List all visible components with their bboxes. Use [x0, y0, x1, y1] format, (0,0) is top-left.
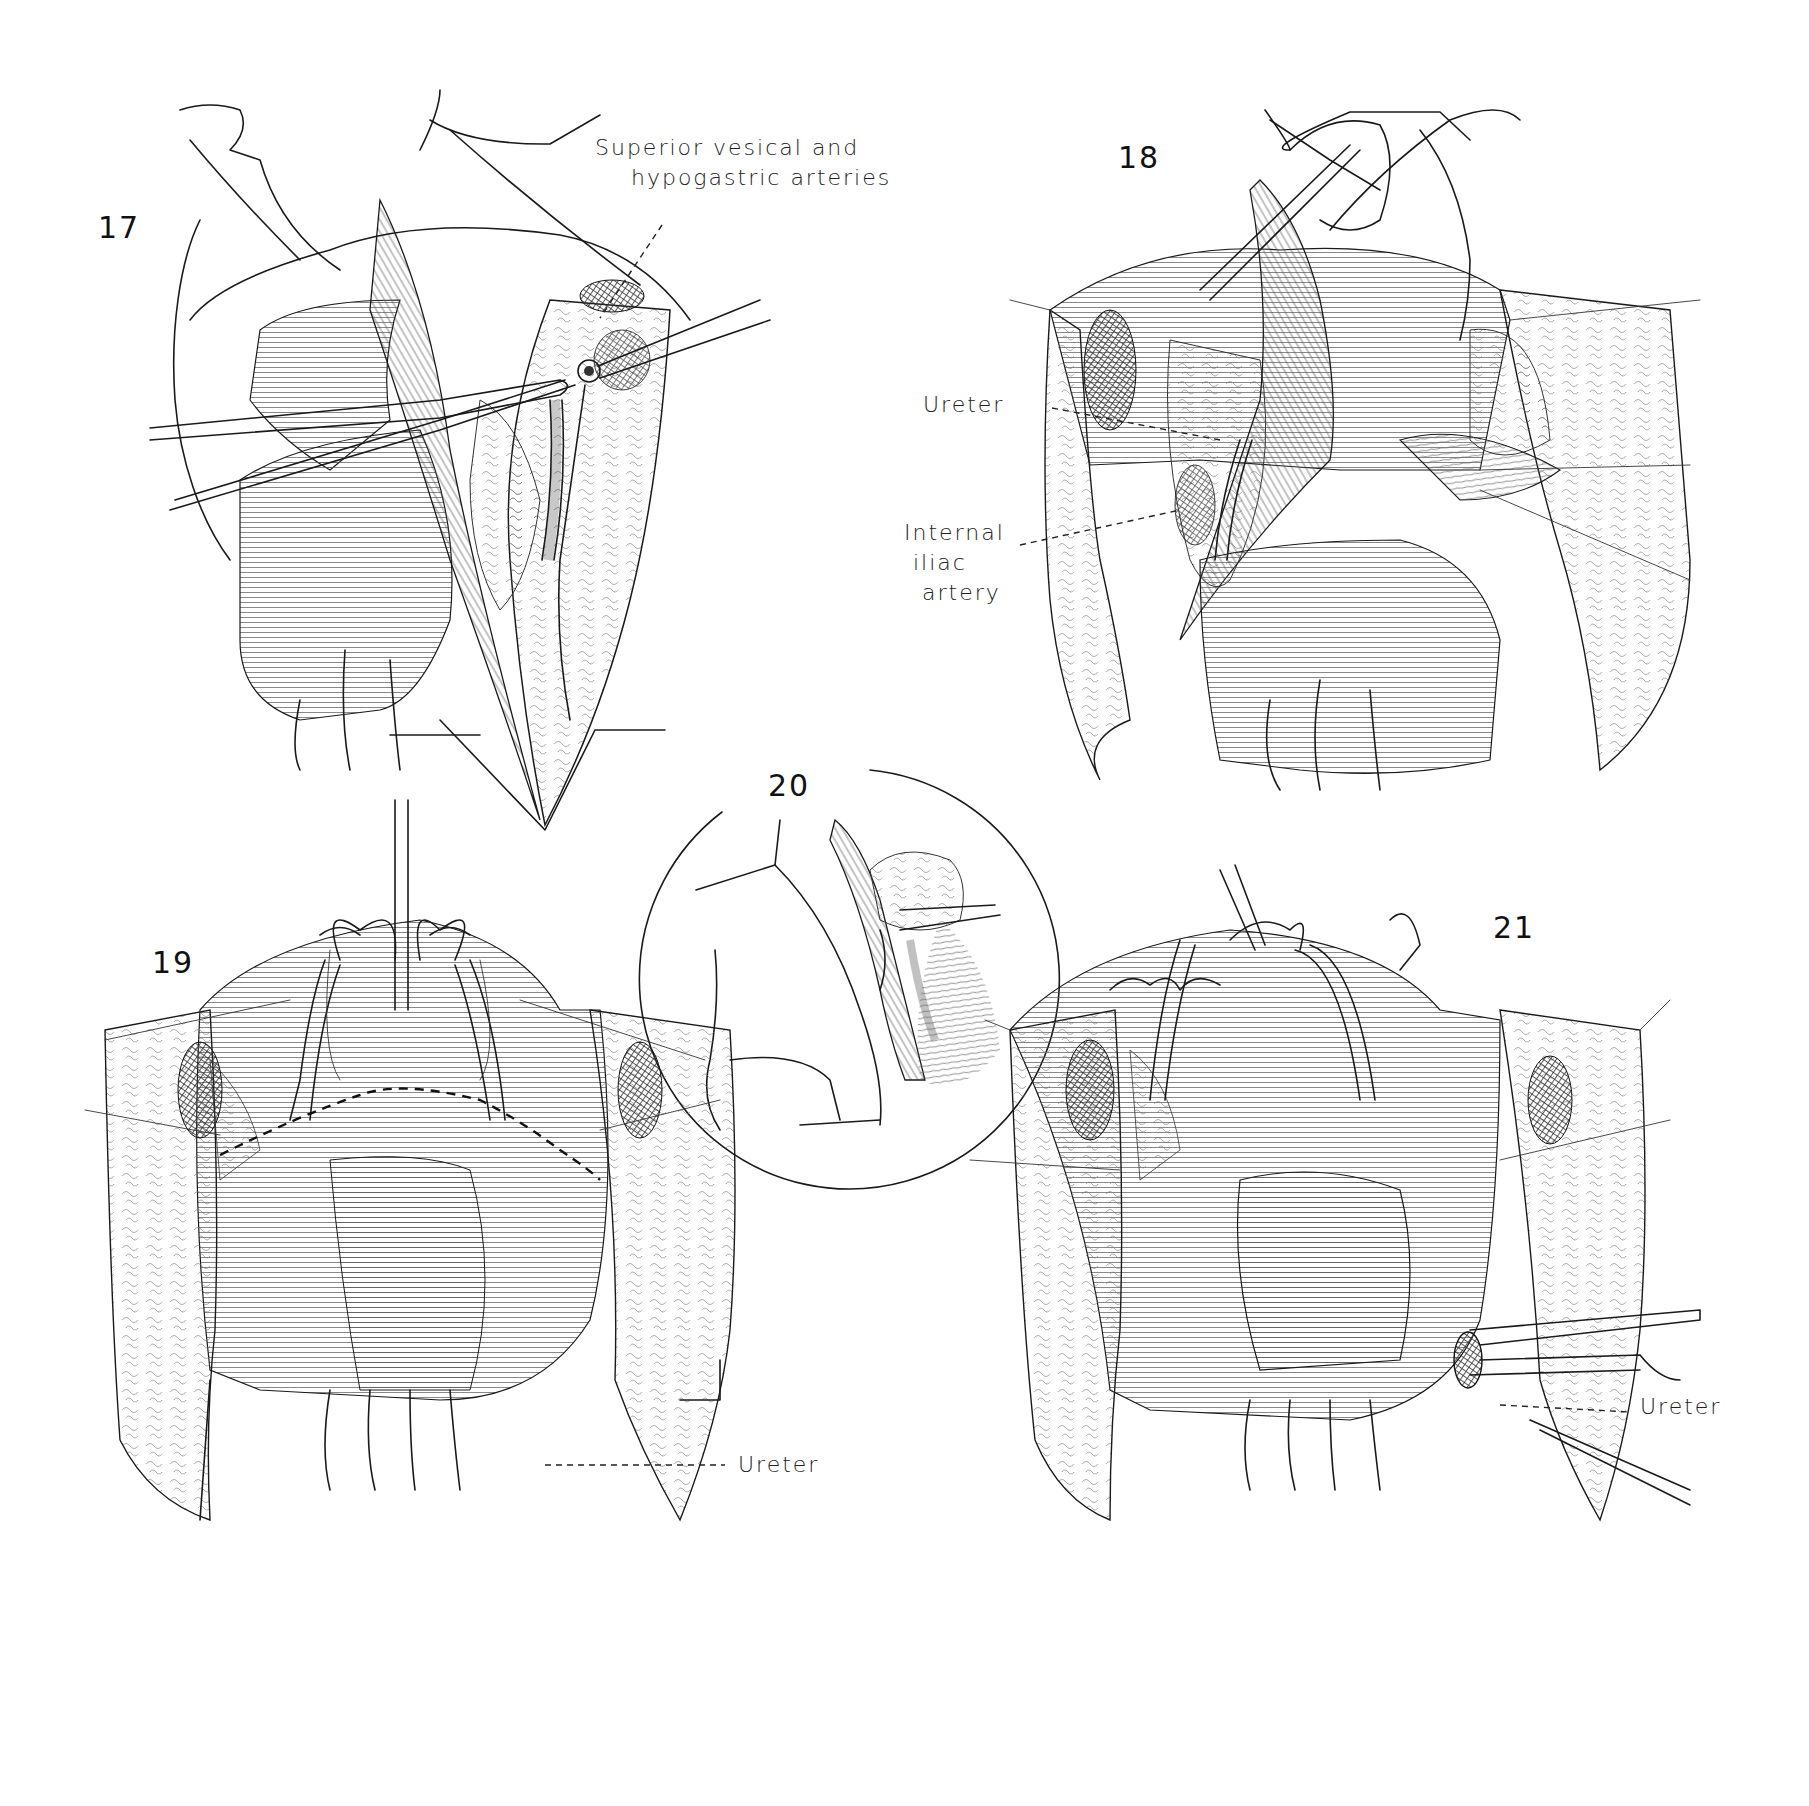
anatomical-plate: 17 18 20 19 21 Superior vesical and hypo…	[0, 0, 1809, 1806]
figure-18-number: 18	[1118, 140, 1160, 175]
figure-17-drawing	[150, 90, 770, 830]
label-ureter-fig19: Ureter	[738, 1450, 819, 1480]
figure-17-number: 17	[98, 210, 140, 245]
label-internal-iliac-artery: Internal iliac artery	[904, 518, 1005, 608]
figure-18-drawing	[1010, 110, 1700, 790]
figure-21-drawing	[970, 865, 1700, 1520]
figure-19-drawing	[85, 800, 735, 1520]
figure-21-number: 21	[1493, 910, 1535, 945]
surgical-illustrations	[0, 0, 1809, 1806]
label-ureter-fig18: Ureter	[923, 390, 1004, 420]
label-ureter-fig21: Ureter	[1640, 1392, 1721, 1422]
figure-20-number: 20	[768, 768, 810, 803]
figure-19-number: 19	[152, 945, 194, 980]
label-superior-vesical-hypogastric-arteries: Superior vesical and hypogastric arterie…	[595, 133, 891, 193]
